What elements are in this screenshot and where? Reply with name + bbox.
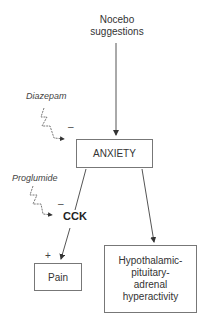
edge-cck-pain: [61, 228, 70, 259]
nocebo-line1: Nocebo: [82, 14, 152, 26]
label-proglumide: Proglumide: [12, 173, 58, 183]
hpa-line3: adrenal: [134, 279, 167, 291]
node-pain: Pain: [34, 263, 82, 291]
zigzag-proglumide-icon: [30, 186, 52, 215]
label-diazepam: Diazepam: [26, 91, 67, 101]
edge-anxiety-hpa: [142, 169, 154, 242]
node-anxiety: ANXIETY: [76, 139, 153, 168]
zigzag-diazepam-icon: [41, 108, 64, 139]
sign-cck-pain: +: [45, 250, 51, 261]
hpa-line4: hyperactivity: [123, 291, 179, 303]
nocebo-line2: suggestions: [82, 26, 152, 38]
sign-proglumide-inhibit: –: [58, 198, 64, 209]
node-cck: CCK: [63, 210, 87, 222]
node-hpa-hyperactivity: Hypothalamic- pituitary- adrenal hyperac…: [104, 245, 197, 313]
hpa-line1: Hypothalamic-: [119, 255, 183, 267]
node-nocebo-suggestions: Nocebo suggestions: [82, 14, 152, 38]
edge-anxiety-cck: [75, 169, 86, 210]
hpa-line2: pituitary-: [131, 267, 169, 279]
sign-diazepam-inhibit: –: [68, 121, 74, 132]
